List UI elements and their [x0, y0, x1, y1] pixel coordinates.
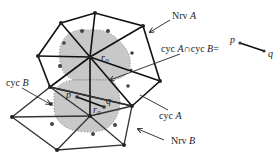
seg-q-label: q	[268, 48, 273, 59]
pq-equals-segment: p q	[229, 34, 273, 59]
nrv-a-label: Nrv A	[172, 10, 197, 21]
seg-p-label: p	[229, 34, 235, 45]
nrv-b-label: Nrv B	[171, 135, 195, 146]
p-label: p	[65, 89, 71, 100]
cyc-a-label: cyc A	[159, 110, 182, 121]
cyc-b-region	[54, 80, 120, 132]
cyc-b-label: cyc B	[6, 77, 29, 88]
intersection-label: cyc A∩cyc B=	[161, 43, 219, 54]
nerve-complex-diagram: r0 r0 p q Nrv A cyc A∩cyc B= cyc A Nrv B…	[0, 0, 278, 164]
q-label: q	[106, 95, 111, 106]
